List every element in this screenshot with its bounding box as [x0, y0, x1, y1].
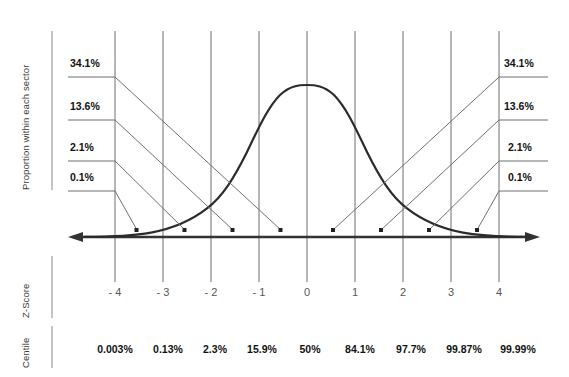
centile-value-2: 97.7% [396, 343, 426, 355]
centile-value--1: 15.9% [247, 343, 277, 355]
centile-value-0: 50% [299, 343, 320, 355]
right-proportion-label-34: 34.1% [504, 57, 534, 69]
zscore-tick--2: - 2 [199, 286, 223, 298]
zscore-tick-2: 2 [391, 286, 415, 298]
left-proportion-label-0: 0.1% [70, 171, 94, 183]
centile-value--3: 0.13% [153, 343, 183, 355]
centile-value-4: 99.99% [500, 343, 536, 355]
normal-distribution-figure: Proportion within each sector Z-Score Ce… [0, 0, 569, 377]
left-proportion-label-34: 34.1% [70, 57, 100, 69]
right-proportion-label-2: 2.1% [508, 141, 532, 153]
axis-title-centile: Centile [20, 338, 31, 368]
zscore-tick--3: - 3 [151, 286, 175, 298]
centile-value-3: 99.87% [446, 343, 482, 355]
axis-arrow-left [68, 232, 83, 242]
left-proportion-label-2: 2.1% [70, 141, 94, 153]
zscore-tick--4: - 4 [103, 286, 127, 298]
leader-right-0 [477, 191, 548, 230]
zscore-tick--1: - 1 [247, 286, 271, 298]
centile-value-1: 84.1% [345, 343, 375, 355]
right-proportion-label-13: 13.6% [504, 100, 534, 112]
zscore-tick-0: 0 [295, 286, 319, 298]
zscore-tick-4: 4 [487, 286, 511, 298]
centile-value--2: 2.3% [203, 343, 227, 355]
centile-value--4: 0.003% [97, 343, 133, 355]
zscore-tick-1: 1 [343, 286, 367, 298]
leader-left-0 [68, 191, 137, 230]
right-proportion-label-0: 0.1% [508, 171, 532, 183]
axis-title-proportion: Proportion within each sector [20, 65, 31, 190]
axis-title-zscore: Z-Score [20, 284, 31, 318]
gridlines [115, 31, 499, 282]
left-proportion-label-13: 13.6% [70, 100, 100, 112]
zscore-tick-3: 3 [439, 286, 463, 298]
